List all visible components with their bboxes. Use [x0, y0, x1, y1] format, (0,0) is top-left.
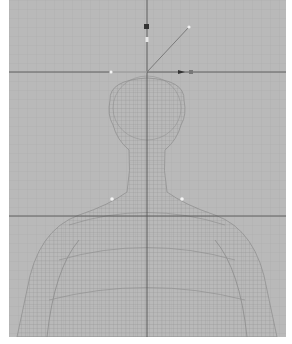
aim-handle-icon[interactable]	[187, 25, 190, 28]
left-handle-icon[interactable]	[109, 70, 112, 73]
3d-viewport[interactable]	[9, 0, 286, 337]
shoulder-right-handle-icon[interactable]	[180, 197, 184, 201]
viewport-canvas[interactable]	[9, 0, 286, 337]
light-marker-icon[interactable]	[189, 70, 193, 74]
shoulder-left-handle-icon[interactable]	[110, 197, 114, 201]
handle-icon[interactable]	[146, 37, 149, 42]
camera-marker-icon[interactable]	[144, 24, 149, 29]
